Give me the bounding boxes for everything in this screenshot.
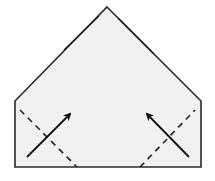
paper-shape <box>15 7 201 167</box>
origami-diagram <box>0 0 215 181</box>
